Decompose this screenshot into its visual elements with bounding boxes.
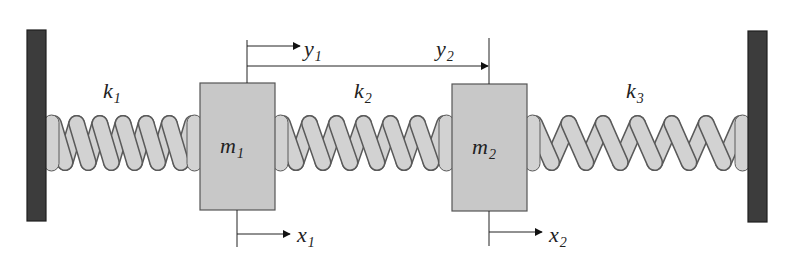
spring-mass-diagram: m1m2 k1k2k3y1y2x1x2 bbox=[0, 0, 786, 256]
spring-k2 bbox=[273, 115, 454, 171]
right-wall bbox=[748, 31, 767, 222]
spring-label-k2: k2 bbox=[354, 78, 372, 106]
spring-k1 bbox=[44, 115, 202, 171]
displacement-label-y2: y2 bbox=[434, 36, 454, 64]
springs bbox=[44, 115, 750, 171]
mass-m2: m2 bbox=[452, 84, 527, 211]
spring-label-k1: k1 bbox=[103, 78, 121, 106]
mass-m1: m1 bbox=[200, 83, 275, 210]
displacement-label-x2: x2 bbox=[548, 222, 567, 250]
displacement-label-x1: x1 bbox=[296, 222, 315, 250]
spring-label-k3: k3 bbox=[626, 78, 644, 106]
displacement-label-y1: y1 bbox=[302, 36, 322, 64]
spring-k3 bbox=[525, 115, 750, 171]
left-wall bbox=[27, 30, 46, 221]
